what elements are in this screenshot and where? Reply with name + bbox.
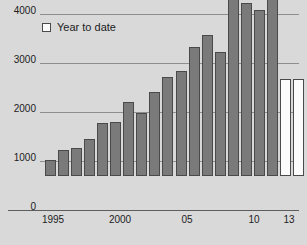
legend: Year to date: [42, 22, 116, 33]
x-tick-label-2000: 2000: [100, 214, 140, 225]
x-tick-label-1995: 1995: [33, 214, 73, 225]
y-tick-label-4000: 4000: [0, 6, 36, 16]
bar-2011-full: [254, 10, 265, 176]
bar-2001-full: [123, 102, 134, 176]
bar-1995-full: [45, 160, 56, 176]
bar-1996-full: [58, 150, 69, 176]
bar-2005-full: [176, 71, 187, 176]
y-axis-labels: 4000 3000 2000 1000 0: [0, 0, 36, 245]
bar-1999-full: [97, 123, 108, 176]
bar-2009-full: [228, 0, 239, 176]
x-axis-line: [8, 210, 299, 211]
x-tick-label-05: 05: [172, 214, 202, 225]
bar-1998-full: [84, 139, 95, 176]
bar-2002-full: [136, 113, 147, 176]
bar-2003-full: [149, 92, 160, 176]
bar-2010-full: [241, 3, 252, 176]
bar-2006-full: [189, 47, 200, 176]
bar-2008-full: [215, 52, 226, 176]
legend-label-year-to-date: Year to date: [57, 22, 116, 33]
y-tick-label-1000: 1000: [0, 153, 36, 163]
bar-2013-ytd: [293, 79, 304, 176]
x-tick-label-10: 10: [239, 214, 269, 225]
y-tick-label-2000: 2000: [0, 104, 36, 114]
bar-2000-full: [110, 122, 121, 176]
y-tick-label-3000: 3000: [0, 55, 36, 65]
bar-chart: 4000 3000 2000 1000 0 1995 2000 05 10 13…: [0, 0, 307, 245]
x-tick-label-13: 13: [276, 214, 302, 225]
bar-2007-full: [202, 35, 213, 176]
bar-2012-ytd: [280, 79, 291, 176]
legend-swatch-year-to-date: [42, 23, 51, 32]
bar-2004-full: [162, 77, 173, 176]
bar-2012-full: [267, 0, 278, 176]
bar-1997-full: [71, 148, 82, 176]
